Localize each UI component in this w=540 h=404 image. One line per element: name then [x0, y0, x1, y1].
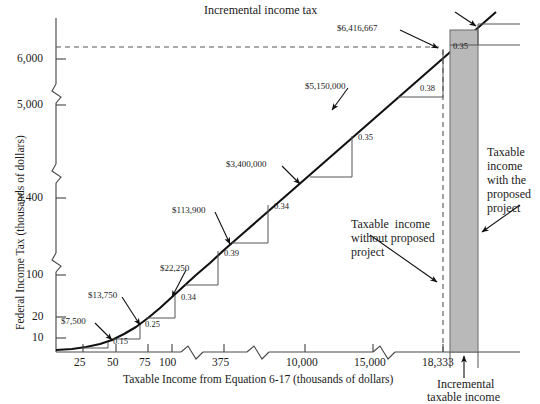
x-tick-100: 100	[159, 356, 176, 369]
y-axis-label: Federal Income Tax (thousands of dollars…	[14, 135, 26, 330]
slope-label-015: 0.15	[113, 337, 128, 347]
x-axis-label: Taxable Income from Equation 6-17 (thous…	[123, 373, 393, 386]
slope-label-038: 0.38	[420, 84, 435, 94]
y-tick-6000: 6,000	[17, 52, 43, 65]
slope-label-035a: 0.35	[358, 133, 373, 143]
callout-without-line3: project	[351, 246, 384, 259]
callout-without-line2: without proposed	[351, 232, 435, 245]
y-axis	[52, 18, 66, 352]
annotation-22250: $22,250	[160, 263, 189, 273]
incremental-tax-bracket	[478, 24, 520, 45]
annotation-7500: $7,500	[61, 316, 86, 326]
slope-label-025: 0.25	[145, 320, 160, 330]
y-tick-20: 20	[32, 310, 44, 323]
slope-label-034a: 0.34	[181, 293, 196, 303]
figure-income-tax-chart: 6,000 5,000 3,400 100 20 10 25 50 75 100…	[0, 0, 540, 404]
annotation-6416667: $6,416,667	[337, 23, 378, 33]
x-tick-75: 75	[139, 356, 151, 369]
y-tick-100: 100	[26, 268, 43, 281]
x-tick-18333: 18,333	[422, 356, 454, 369]
chart-canvas	[0, 0, 540, 404]
slope-label-034b: 0.34	[274, 202, 289, 212]
annotation-3400000: $3,400,000	[226, 159, 267, 169]
callout-incremental-income-tax: Incremental income tax	[204, 4, 317, 17]
callout-with-line3: with the	[487, 174, 526, 187]
callout-with-line4: proposed	[487, 188, 531, 201]
callout-with-line1: Taxable	[487, 146, 525, 159]
x-tick-10000: 10,000	[286, 356, 318, 369]
x-tick-25: 25	[74, 356, 86, 369]
incremental-taxable-income-band	[450, 30, 478, 352]
y-tick-5000: 5,000	[17, 98, 43, 111]
callout-without-line1: Taxable income	[351, 218, 430, 231]
slope-label-035b: 0.35	[453, 42, 468, 52]
callout-inc-taxable-line2: taxable income	[427, 391, 500, 404]
callout-with-line2: income	[487, 160, 522, 173]
x-tick-375: 375	[212, 356, 229, 369]
slope-label-039: 0.39	[224, 249, 239, 259]
y-tick-10: 10	[32, 331, 44, 344]
annotation-113900: $113,900	[172, 205, 205, 215]
callout-with-line5: project	[487, 202, 520, 215]
slope-triangles	[82, 24, 478, 348]
annotation-13750: $13,750	[88, 290, 117, 300]
x-tick-15000: 15,000	[354, 356, 386, 369]
annotation-5150000: $5,150,000	[305, 81, 346, 91]
x-tick-50: 50	[107, 356, 119, 369]
tax-curve	[56, 12, 496, 350]
